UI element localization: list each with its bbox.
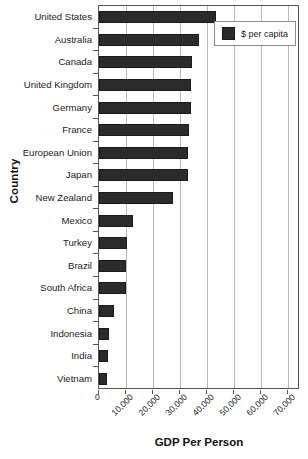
bar-row bbox=[99, 260, 298, 272]
y-axis-tick-label: European Union bbox=[0, 146, 92, 157]
bar-row bbox=[99, 282, 298, 294]
bar bbox=[99, 373, 107, 385]
bar-chart: Country United StatesAustraliaCanadaUnit… bbox=[0, 0, 308, 459]
bar-row bbox=[99, 215, 298, 227]
x-axis-tick-label: 70,000 bbox=[271, 392, 297, 418]
x-axis-tick-label: 40,000 bbox=[190, 392, 216, 418]
y-axis-tick-label: United States bbox=[0, 11, 92, 22]
bar bbox=[99, 215, 133, 227]
y-axis-tick-label: Japan bbox=[0, 169, 92, 180]
legend-swatch-icon bbox=[222, 27, 235, 40]
y-axis-tick-label: Indonesia bbox=[0, 327, 92, 338]
bar-series bbox=[99, 6, 298, 388]
bar-row bbox=[99, 102, 298, 114]
y-axis-tick-label: France bbox=[0, 124, 92, 135]
bar bbox=[99, 305, 114, 317]
bar-row bbox=[99, 169, 298, 181]
legend-label: $ per capita bbox=[241, 29, 288, 39]
bar-row bbox=[99, 350, 298, 362]
x-axis-tick-label: 10,000 bbox=[109, 392, 135, 418]
plot-area bbox=[98, 5, 299, 389]
x-axis-tick-label: 30,000 bbox=[163, 392, 189, 418]
bar bbox=[99, 11, 216, 23]
bar bbox=[99, 350, 108, 362]
bar-row bbox=[99, 192, 298, 204]
y-axis-tick-label: Turkey bbox=[0, 237, 92, 248]
bar bbox=[99, 192, 173, 204]
x-axis-tick-label: 60,000 bbox=[244, 392, 270, 418]
bar-row bbox=[99, 373, 298, 385]
bar bbox=[99, 282, 126, 294]
y-axis-tick-label: South Africa bbox=[0, 282, 92, 293]
bar bbox=[99, 34, 199, 46]
bar bbox=[99, 79, 191, 91]
bar-row bbox=[99, 124, 298, 136]
bar bbox=[99, 147, 188, 159]
bar bbox=[99, 260, 126, 272]
x-axis-tick-label: 0 bbox=[95, 392, 100, 402]
x-axis-title: GDP Per Person bbox=[98, 436, 300, 448]
y-axis-tick-label: Brazil bbox=[0, 259, 92, 270]
bar bbox=[99, 328, 109, 340]
bar-row bbox=[99, 147, 298, 159]
y-axis-tick-label: India bbox=[0, 350, 92, 361]
bar bbox=[99, 102, 191, 114]
bar-row bbox=[99, 79, 298, 91]
bar-row bbox=[99, 328, 298, 340]
x-axis-tick-labels: 010,00020,00030,00040,00050,00060,00070,… bbox=[98, 390, 308, 438]
bar-row bbox=[99, 56, 298, 68]
y-axis-tick-label: New Zealand bbox=[0, 192, 92, 203]
y-axis-tick-label: Mexico bbox=[0, 214, 92, 225]
bar-row bbox=[99, 305, 298, 317]
y-axis-tick-labels: United StatesAustraliaCanadaUnited Kingd… bbox=[0, 5, 96, 389]
y-axis-tick-label: Canada bbox=[0, 56, 92, 67]
bar bbox=[99, 56, 192, 68]
bar bbox=[99, 169, 188, 181]
legend: $ per capita bbox=[214, 21, 296, 46]
y-axis-tick-label: United Kingdom bbox=[0, 79, 92, 90]
bar bbox=[99, 237, 127, 249]
bar bbox=[99, 124, 189, 136]
bar-row bbox=[99, 237, 298, 249]
x-axis-tick-label: 20,000 bbox=[136, 392, 162, 418]
y-axis-tick-label: Germany bbox=[0, 101, 92, 112]
y-axis-tick-label: China bbox=[0, 304, 92, 315]
x-axis-tick-label: 50,000 bbox=[217, 392, 243, 418]
y-axis-tick-label: Vietnam bbox=[0, 372, 92, 383]
y-axis-tick-label: Australia bbox=[0, 33, 92, 44]
